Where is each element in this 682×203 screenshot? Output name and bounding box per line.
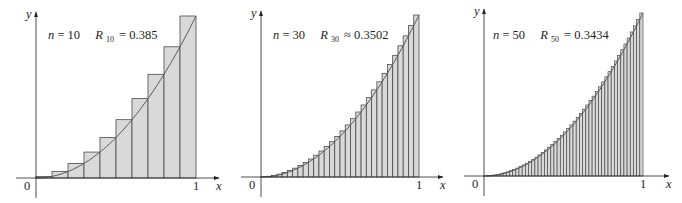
rectangle [598,87,601,176]
n-symbol: n [48,28,54,42]
rectangle [535,157,538,176]
y-axis-label: y [24,7,32,21]
rectangle [570,125,573,176]
x-axis-label: x [439,178,446,192]
rectangle [387,65,392,178]
rectangle [382,73,387,177]
rectangle [366,98,371,177]
rectangle [551,144,554,176]
rectangle [180,16,196,178]
tick-label-0: 0 [249,178,255,192]
rectangle [595,92,598,176]
x-axis-label: x [665,177,672,191]
y-axis-label: y [472,4,480,18]
rectangle [340,131,345,177]
rectangle [624,44,627,176]
rectangle [408,26,413,177]
rectangle [377,82,382,177]
rectangle [608,72,611,176]
rectangle [637,19,640,176]
annotation: n = 10 R 10 = 0.385 [48,28,157,45]
rectangle [564,132,567,176]
rectangle [100,138,116,179]
r-subscript: 30 [331,35,339,44]
rectangle [541,152,544,176]
y-axis-label: y [249,6,257,20]
rectangle [356,112,361,177]
rectangle [132,99,148,178]
rectangle [554,142,557,176]
r-subscript: 10 [106,35,114,44]
rectangle [633,26,636,176]
r-symbol: R [539,28,548,42]
rectangle [544,150,547,176]
r-subscript: 50 [551,35,559,44]
riemann-sum-figure: y x 0 1 n = 10 R 10 = 0.385 y x 0 1 n = … [0,0,682,203]
rectangle [414,15,419,177]
n-value: = 30 [282,28,305,42]
tick-label-1: 1 [640,177,646,191]
rectangle [567,128,570,176]
n-symbol: n [273,28,279,42]
rectangle [372,90,377,177]
n-value: = 50 [502,28,525,42]
x-axis-label: x [215,179,222,193]
rectangle [329,142,334,177]
tick-label-1: 1 [416,178,422,192]
rectangle [148,74,164,178]
rectangle [640,13,643,176]
rectangle [557,138,560,176]
r-value: = 0.385 [119,28,157,42]
rectangle [602,82,605,176]
rectangle [611,66,614,176]
r-value: = 0.3434 [564,28,609,42]
rectangle [621,50,624,176]
rectangle [592,96,595,176]
n-symbol: n [493,28,499,42]
rectangle [324,147,329,177]
rectangle [618,55,621,176]
rectangle [583,109,586,176]
rectangle [586,105,589,176]
rectangle [576,117,579,176]
rectangle [627,38,630,176]
rectangle [614,61,617,176]
rectangle [398,46,403,177]
chart-panel-n50: y x 0 1 n = 50 R 50 = 0.3434 [464,4,672,196]
rectangle [548,147,551,176]
rectangle [361,105,366,177]
annotation: n = 30 R 30 ≈ 0.3502 [273,28,388,45]
rectangle [579,113,582,176]
tick-label-0: 0 [24,179,30,193]
rectangle [589,101,592,176]
r-value: ≈ 0.3502 [344,28,388,42]
tick-label-1: 1 [193,179,199,193]
chart-panel-n10: y x 0 1 n = 10 R 10 = 0.385 [16,7,222,198]
chart-panel-n30: y x 0 1 n = 30 R 30 ≈ 0.3502 [241,6,446,197]
rectangle [532,159,535,176]
tick-label-0: 0 [472,177,478,191]
rectangle [630,32,633,176]
rectangle [164,47,180,178]
n-value: = 10 [57,28,80,42]
rectangle [84,152,100,178]
rectangle [605,77,608,176]
rectangle [529,161,532,176]
rectangle [393,55,398,177]
rectangle [573,121,576,176]
rectangle [351,119,356,177]
r-symbol: R [94,28,103,42]
rectangle [345,125,350,177]
rectangle [538,155,541,176]
r-symbol: R [319,28,328,42]
rectangle [560,135,563,176]
annotation: n = 50 R 50 = 0.3434 [493,28,609,45]
rectangle [335,137,340,178]
rectangle [403,36,408,177]
